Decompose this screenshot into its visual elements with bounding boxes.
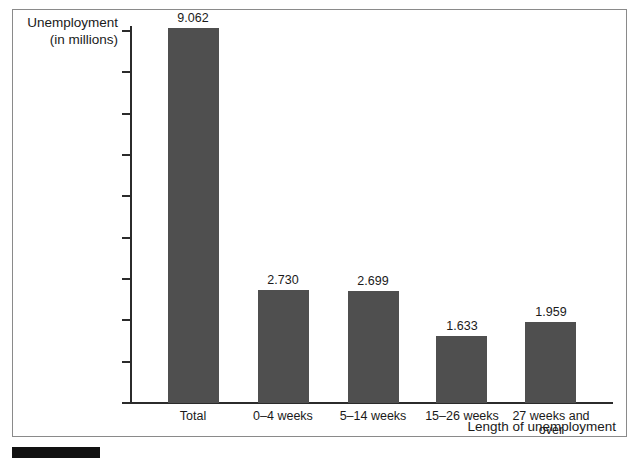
figure-bottom-marker: [12, 447, 100, 458]
bar-value-0-4-weeks: 2.730: [238, 274, 328, 287]
bar-15-26-weeks: [436, 336, 487, 403]
y-tick-1: 1: [0, 356, 130, 368]
y-tick-6: 6: [0, 149, 130, 161]
bar-value-27-weeks-and-over: 1.959: [506, 306, 596, 319]
bar-value-15-26-weeks: 1.633: [417, 320, 507, 333]
bar-5-14-weeks: [348, 291, 399, 403]
y-tick-5: 5: [0, 190, 130, 202]
y-tick-mark-1: [122, 361, 130, 363]
y-tick-mark-7: [122, 113, 130, 115]
y-tick-mark-5: [122, 195, 130, 197]
y-tick-mark-9: [122, 30, 130, 32]
y-tick-7: 7: [0, 108, 130, 120]
y-tick-mark-0: [122, 402, 130, 404]
y-tick-0: 0: [0, 397, 130, 409]
y-tick-mark-4: [122, 237, 130, 239]
bar-value-total: 9.062: [148, 12, 238, 25]
y-tick-mark-8: [122, 71, 130, 73]
bar-value-5-14-weeks: 2.699: [328, 275, 418, 288]
bar-27-weeks-and-over: [525, 322, 576, 403]
y-tick-2: 2: [0, 314, 130, 326]
x-tick-label-total: Total: [141, 409, 245, 423]
y-tick-mark-2: [122, 319, 130, 321]
x-axis-title: Length of unemployment: [421, 419, 616, 435]
bar-total: [168, 28, 219, 403]
y-tick-4: 4: [0, 232, 130, 244]
y-tick-mark-3: [122, 278, 130, 280]
y-tick-mark-6: [122, 154, 130, 156]
y-axis-line: [130, 26, 132, 404]
bar-0-4-weeks: [258, 290, 309, 403]
y-tick-3: 3: [0, 273, 130, 285]
x-tick-label-0-4-weeks: 0–4 weeks: [231, 409, 335, 423]
y-tick-8: 8: [0, 66, 130, 78]
y-tick-9: 9: [0, 25, 130, 37]
